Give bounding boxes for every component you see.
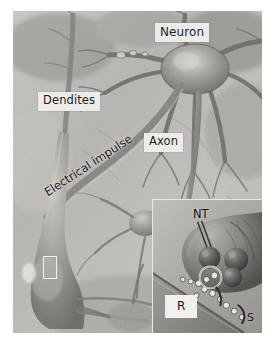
label-neuron: Neuron	[155, 23, 209, 42]
illustration-plate: Neuron Dendites Axon Electrical impulse	[13, 11, 262, 333]
zoom-marker-box	[43, 256, 57, 279]
label-axon: Axon	[144, 133, 183, 152]
neuron-figure: Neuron Dendites Axon Electrical impulse	[0, 0, 274, 349]
label-nt: NT	[193, 209, 209, 221]
label-r: R	[165, 295, 197, 318]
synapse-inset-panel: NT R S	[152, 199, 262, 333]
label-dendites: Dendites	[38, 92, 100, 111]
label-s: S	[247, 312, 254, 323]
